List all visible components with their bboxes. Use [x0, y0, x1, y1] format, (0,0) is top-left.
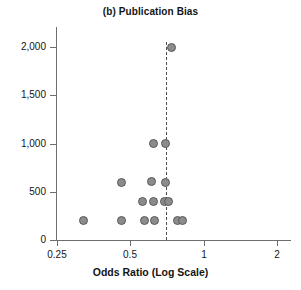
y-axis-tick	[50, 240, 56, 241]
y-axis-tick-label: 0	[0, 235, 46, 245]
publication-bias-figure: (b) Publication Bias 05001,0001,5002,000…	[0, 0, 301, 290]
scatter-data-point	[178, 216, 187, 225]
y-axis-tick	[50, 95, 56, 96]
scatter-data-point	[167, 43, 176, 52]
y-axis-tick-label: 500	[0, 187, 46, 197]
x-axis-tick	[277, 241, 278, 246]
scatter-data-point	[149, 197, 158, 206]
x-axis-tick	[204, 241, 205, 246]
y-axis-tick	[50, 144, 56, 145]
scatter-data-point	[117, 178, 126, 187]
scatter-data-point	[149, 139, 158, 148]
y-axis-tick-label: 1,500	[0, 90, 46, 100]
scatter-data-point	[161, 139, 170, 148]
scatter-data-point	[164, 197, 173, 206]
x-axis-label: Odds Ratio (Log Scale)	[0, 266, 301, 278]
x-axis-tick	[130, 241, 131, 246]
scatter-data-point	[147, 177, 156, 186]
scatter-data-point	[150, 216, 159, 225]
scatter-data-point	[140, 216, 149, 225]
y-axis-tick-label: 1,000	[0, 139, 46, 149]
x-axis-tick-label: 0.5	[110, 250, 150, 260]
y-axis-tick	[50, 47, 56, 48]
x-axis-tick-label: 1	[184, 250, 224, 260]
scatter-data-point	[161, 178, 170, 187]
scatter-plot-area: 05001,0001,5002,0000.250.512	[0, 0, 301, 290]
x-axis-tick	[57, 241, 58, 246]
y-axis-line	[56, 27, 57, 241]
y-axis-tick-label: 2,000	[0, 42, 46, 52]
x-axis-line	[56, 240, 291, 241]
y-axis-tick	[50, 192, 56, 193]
scatter-data-point	[138, 197, 147, 206]
scatter-data-point	[79, 216, 88, 225]
x-axis-tick-label: 2	[257, 250, 297, 260]
scatter-data-point	[117, 216, 126, 225]
x-axis-tick-label: 0.25	[37, 250, 77, 260]
